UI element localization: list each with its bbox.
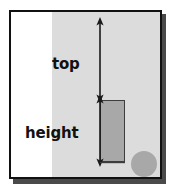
dimension-arrows-layer bbox=[11, 12, 160, 177]
top-dimension-label: top bbox=[52, 57, 80, 72]
diagram-canvas: top height bbox=[11, 12, 160, 177]
figure-root: top height bbox=[0, 0, 175, 194]
diagram-frame: top height bbox=[9, 10, 162, 179]
height-dimension-label: height bbox=[25, 126, 78, 141]
